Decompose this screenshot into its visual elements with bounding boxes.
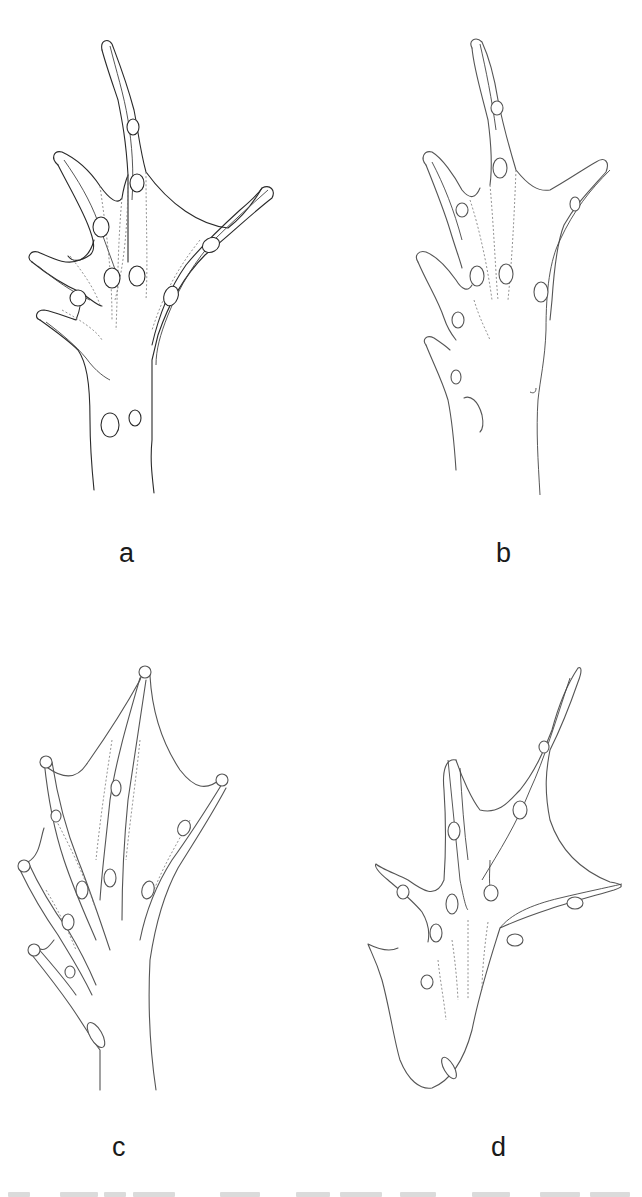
foot-drawing-d bbox=[360, 660, 642, 1100]
panel-label-d: d bbox=[491, 1134, 506, 1161]
figure-caption-truncated bbox=[0, 1189, 642, 1197]
panel-label-a: a bbox=[119, 540, 134, 567]
foot-drawing-a bbox=[0, 0, 300, 520]
foot-drawing-b bbox=[400, 0, 642, 520]
panel-label-c: c bbox=[112, 1134, 126, 1161]
panel-a bbox=[0, 0, 300, 520]
panel-d bbox=[360, 660, 642, 1100]
foot-drawing-c bbox=[0, 650, 260, 1110]
panel-b bbox=[400, 0, 642, 520]
panel-c bbox=[0, 650, 260, 1110]
panel-label-b: b bbox=[496, 540, 511, 567]
